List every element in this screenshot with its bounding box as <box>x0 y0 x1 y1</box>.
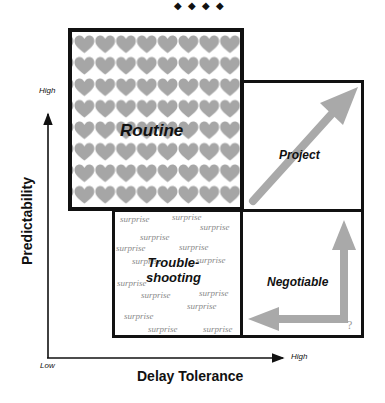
quadrant-routine: Routine <box>68 28 244 211</box>
question-mark-icon: ? <box>347 318 352 333</box>
surprise-text: surprise <box>200 222 230 232</box>
quadrant-project: Project <box>240 80 364 212</box>
project-label: Project <box>279 148 320 162</box>
y-axis-high-label: High <box>39 86 55 95</box>
surprise-text: surprise <box>117 278 147 288</box>
routine-label: Routine <box>120 121 183 141</box>
troubleshooting-label-line1: Trouble- <box>146 255 201 270</box>
diagonal-arrow-icon <box>243 83 361 209</box>
hearts-pattern <box>72 32 240 207</box>
surprise-text: surprise <box>148 324 178 334</box>
surprise-text: surprise <box>187 301 217 311</box>
surprise-text: surprise <box>179 242 209 252</box>
quadrant-negotiable: Negotiable ? <box>240 209 364 338</box>
surprise-text: surprise <box>141 290 171 300</box>
surprise-text: surprise <box>116 243 146 253</box>
x-axis-low-label: Low <box>40 361 55 370</box>
troubleshooting-label-line2: shooting <box>146 270 201 285</box>
x-axis-high-label: High <box>291 352 307 361</box>
surprise-text: surprise <box>120 214 150 224</box>
negotiable-label: Negotiable <box>267 275 328 289</box>
bidirectional-arrow-icon <box>243 212 361 335</box>
surprise-text: surprise <box>172 212 202 222</box>
surprise-text: surprise <box>199 288 229 298</box>
troubleshooting-label: Trouble- shooting <box>146 255 201 285</box>
surprise-text: surprise <box>124 311 154 321</box>
x-axis-title: Delay Tolerance <box>137 368 243 384</box>
surprise-text: surprise <box>203 324 233 334</box>
quadrant-troubleshooting: surprise surprise surprise surprise surp… <box>112 209 243 338</box>
y-axis-title: Predictability <box>19 166 35 276</box>
surprise-text: surprise <box>140 232 170 242</box>
